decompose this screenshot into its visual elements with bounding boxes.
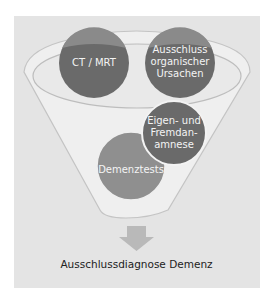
line-3: amnese [140, 139, 208, 151]
node-anamnese-label: Eigen- und Fremdan- amnese [140, 115, 208, 151]
result-label: Ausschlussdiagnose Demenz [0, 258, 273, 270]
line-1: Ausschluss [144, 44, 216, 56]
line-1: Eigen- und [140, 115, 208, 127]
line-3: Ursachen [144, 68, 216, 80]
funnel-diagram [0, 0, 273, 298]
line-2: Fremdan- [140, 127, 208, 139]
node-ausschluss-label: Ausschluss organischer Ursachen [144, 44, 216, 80]
down-arrow-icon [119, 226, 154, 251]
node-demenztests-label: Demenztests [96, 164, 166, 176]
line-2: organischer [144, 56, 216, 68]
node-ct-mrt-label: CT / MRT [64, 57, 124, 69]
